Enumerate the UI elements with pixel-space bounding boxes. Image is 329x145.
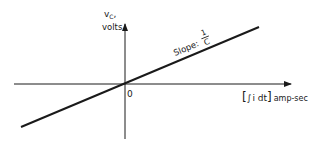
y-axis-label-unit: volts xyxy=(102,22,123,32)
slope-line xyxy=(21,27,259,127)
origin-label: 0 xyxy=(127,89,133,99)
slope-prefix: Slope: xyxy=(172,38,200,57)
slope-numerator: 1 xyxy=(200,27,208,37)
diagram-canvas: vC, volts 0 Slope: 1 C [∫i dt]amp-sec xyxy=(0,0,329,145)
y-axis-label-symbol: vC, xyxy=(104,9,116,20)
slope-denominator: C xyxy=(203,37,212,48)
x-axis-label: [∫i dt]amp-sec xyxy=(242,90,308,104)
